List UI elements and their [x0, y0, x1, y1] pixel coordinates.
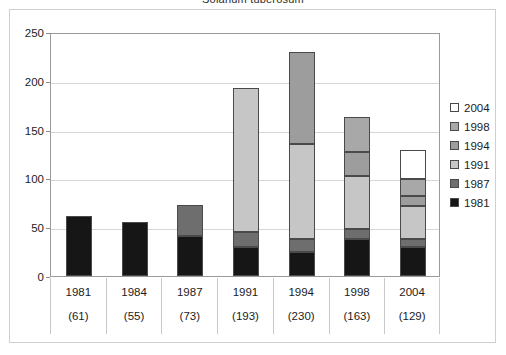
bar-segment[interactable]	[177, 205, 203, 236]
y-axis-tick-label: 150	[2, 125, 44, 137]
bar-segment[interactable]	[400, 206, 426, 239]
x-axis-year-label: 2004	[385, 286, 439, 298]
bar-segment[interactable]	[344, 176, 370, 229]
bar-segment[interactable]	[400, 150, 426, 179]
x-axis-table: 1981(61)1984(55)1987(73)1991(193)1994(23…	[50, 278, 440, 334]
x-axis-year-label: 1984	[107, 286, 162, 298]
legend-swatch-icon	[450, 122, 459, 131]
x-axis-year-label: 1987	[162, 286, 217, 298]
x-axis-count-label: (230)	[274, 310, 329, 322]
legend-item[interactable]: 1998	[450, 117, 500, 136]
legend-item-label: 1998	[464, 121, 490, 133]
bar-segment[interactable]	[344, 117, 370, 152]
bar-segment[interactable]	[344, 152, 370, 176]
x-axis-year-label: 1981	[51, 286, 106, 298]
bar-segment[interactable]	[289, 252, 315, 276]
chart-legend: 200419981994199119871981	[450, 98, 500, 212]
x-axis-column: 1994(230)	[273, 278, 329, 334]
bar-segment[interactable]	[122, 222, 148, 276]
y-axis-tick-label: 200	[2, 76, 44, 88]
plot-area	[50, 33, 440, 277]
legend-swatch-icon	[450, 103, 459, 112]
legend-item[interactable]: 1991	[450, 155, 500, 174]
legend-item-label: 1991	[464, 159, 490, 171]
bar-segment[interactable]	[344, 229, 370, 239]
legend-item[interactable]: 1981	[450, 193, 500, 212]
legend-item[interactable]: 1994	[450, 136, 500, 155]
bar-segment[interactable]	[344, 239, 370, 276]
bar-stack[interactable]	[289, 52, 315, 276]
bar-segment[interactable]	[66, 216, 92, 276]
x-axis-count-label: (73)	[162, 310, 217, 322]
bar-segment[interactable]	[289, 239, 315, 252]
x-axis-column: 1991(193)	[217, 278, 273, 334]
x-axis-column: 1987(73)	[161, 278, 217, 334]
x-axis-count-label: (129)	[385, 310, 439, 322]
y-axis-tick-label: 50	[2, 222, 44, 234]
x-axis-column: 1981(61)	[50, 278, 106, 334]
bar-segment[interactable]	[400, 247, 426, 276]
bar-segment[interactable]	[233, 247, 259, 276]
legend-item-label: 2004	[464, 102, 490, 114]
bar-stack[interactable]	[177, 205, 203, 276]
bar-segment[interactable]	[400, 179, 426, 196]
legend-item-label: 1994	[464, 140, 490, 152]
legend-swatch-icon	[450, 179, 459, 188]
legend-item-label: 1981	[464, 197, 490, 209]
x-axis-count-label: (61)	[51, 310, 106, 322]
legend-swatch-icon	[450, 198, 459, 207]
bar-segment[interactable]	[400, 196, 426, 206]
x-axis-year-label: 1994	[274, 286, 329, 298]
bar-stack[interactable]	[233, 88, 259, 276]
bar-stack[interactable]	[66, 216, 92, 276]
bar-segment[interactable]	[233, 88, 259, 232]
y-axis-tick-label: 0	[2, 271, 44, 283]
bar-segment[interactable]	[289, 144, 315, 239]
x-axis-count-label: (55)	[107, 310, 162, 322]
x-axis-column: 1984(55)	[106, 278, 162, 334]
gridline	[51, 83, 439, 84]
bar-stack[interactable]	[400, 150, 426, 276]
x-axis-count-label: (193)	[218, 310, 273, 322]
x-axis-year-label: 1998	[330, 286, 385, 298]
bar-segment[interactable]	[400, 239, 426, 247]
legend-item[interactable]: 2004	[450, 98, 500, 117]
x-axis-column: 2004(129)	[384, 278, 440, 334]
bar-segment[interactable]	[177, 236, 203, 276]
bar-stack[interactable]	[344, 117, 370, 276]
bar-segment[interactable]	[289, 52, 315, 145]
bar-stack[interactable]	[122, 222, 148, 276]
legend-swatch-icon	[450, 160, 459, 169]
x-axis-count-label: (163)	[330, 310, 385, 322]
y-axis-tick-label: 100	[2, 173, 44, 185]
chart-figure: Solanum tuberosum 050100150200250 1981(6…	[0, 0, 506, 355]
chart-title: Solanum tuberosum	[0, 0, 506, 5]
bar-segment[interactable]	[233, 232, 259, 247]
legend-item-label: 1987	[464, 178, 490, 190]
legend-item[interactable]: 1987	[450, 174, 500, 193]
x-axis-column: 1998(163)	[329, 278, 385, 334]
x-axis-year-label: 1991	[218, 286, 273, 298]
legend-swatch-icon	[450, 141, 459, 150]
y-axis-tick-label: 250	[2, 27, 44, 39]
